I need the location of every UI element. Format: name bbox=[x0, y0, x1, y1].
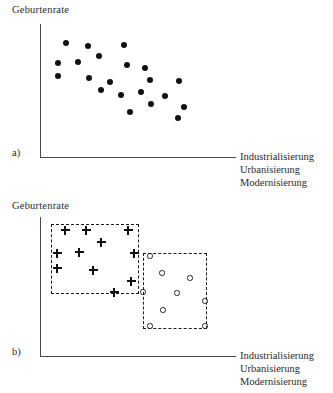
panel-b: Geburtenrate b) Industrialisierung Urban… bbox=[0, 193, 333, 393]
panel-b-x-axis-label-line-1: Industrialisierung bbox=[240, 349, 314, 362]
data-point-plus bbox=[89, 266, 98, 275]
data-point-dot bbox=[75, 59, 81, 65]
data-point-dot bbox=[162, 93, 168, 99]
data-point-dot bbox=[98, 87, 104, 93]
data-point-dot bbox=[124, 62, 130, 68]
data-point-dot bbox=[55, 73, 61, 79]
data-point-circle bbox=[187, 275, 192, 280]
data-point-plus bbox=[82, 226, 91, 235]
panel-b-x-axis-label-line-2: Urbanisierung bbox=[240, 362, 314, 375]
data-point-dot bbox=[96, 53, 102, 59]
panel-a-x-axis-label-line-1: Industrialisierung bbox=[240, 150, 314, 163]
panel-a-x-axis-label-line-3: Modernisierung bbox=[240, 176, 314, 189]
panel-a-x-axis-label: Industrialisierung Urbanisierung Moderni… bbox=[240, 150, 314, 190]
cluster-box-plus bbox=[51, 224, 139, 294]
data-point-dot bbox=[138, 89, 144, 95]
panel-a: Geburtenrate a) Industrialisierung Urban… bbox=[0, 0, 333, 195]
data-point-dot bbox=[107, 79, 113, 85]
data-point-dot bbox=[148, 101, 154, 107]
panel-a-y-axis-label: Geburtenrate bbox=[12, 4, 69, 15]
data-point-dot bbox=[127, 109, 133, 115]
data-point-plus bbox=[110, 288, 119, 297]
data-point-dot bbox=[175, 115, 181, 121]
data-point-circle bbox=[147, 253, 152, 258]
data-point-dot bbox=[118, 92, 124, 98]
data-point-circle bbox=[159, 270, 164, 275]
data-point-plus bbox=[127, 277, 136, 286]
panel-b-tag: b) bbox=[12, 346, 21, 357]
data-point-plus bbox=[130, 249, 139, 258]
data-point-plus bbox=[75, 248, 84, 257]
data-point-plus bbox=[124, 226, 133, 235]
data-point-plus bbox=[97, 238, 106, 247]
panel-a-x-axis-label-line-2: Urbanisierung bbox=[240, 163, 314, 176]
data-point-circle bbox=[202, 298, 207, 303]
cluster-box-circle bbox=[143, 253, 207, 329]
data-point-plus bbox=[53, 264, 62, 273]
data-point-dot bbox=[55, 60, 61, 66]
panel-b-x-axis-label-line-3: Modernisierung bbox=[240, 375, 314, 388]
data-point-dot bbox=[147, 77, 153, 83]
data-point-circle bbox=[147, 323, 152, 328]
data-point-dot bbox=[181, 104, 187, 110]
data-point-plus bbox=[53, 249, 62, 258]
panel-a-y-axis-line bbox=[40, 24, 41, 158]
figure-root: Geburtenrate a) Industrialisierung Urban… bbox=[0, 0, 333, 393]
data-point-dot bbox=[85, 43, 91, 49]
panel-a-x-axis-line bbox=[40, 157, 236, 158]
panel-a-tag: a) bbox=[12, 147, 20, 158]
panel-b-y-axis-line bbox=[40, 217, 41, 357]
data-point-circle bbox=[202, 323, 207, 328]
data-point-dot bbox=[142, 65, 148, 71]
data-point-dot bbox=[176, 78, 182, 84]
data-point-dot bbox=[121, 42, 127, 48]
panel-b-x-axis-label: Industrialisierung Urbanisierung Moderni… bbox=[240, 349, 314, 389]
data-point-circle bbox=[174, 290, 179, 295]
data-point-dot bbox=[86, 75, 92, 81]
data-point-circle bbox=[140, 289, 145, 294]
data-point-plus bbox=[61, 226, 70, 235]
data-point-circle bbox=[160, 307, 165, 312]
panel-b-y-axis-label: Geburtenrate bbox=[12, 200, 69, 211]
data-point-dot bbox=[63, 40, 69, 46]
panel-b-x-axis-line bbox=[40, 356, 236, 357]
